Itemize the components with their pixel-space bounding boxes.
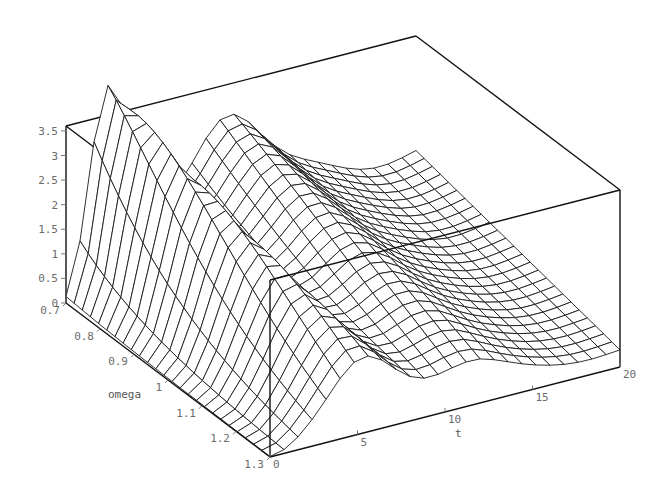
omega-axis-title: omega [108, 388, 141, 401]
omega-tick-label: 1.3 [244, 458, 264, 471]
z-tick-label: 1 [51, 248, 58, 261]
surface-plot: 00.511.522.533.5 0.70.80.911.11.21.3 051… [0, 0, 662, 492]
t-tick-label: 20 [623, 368, 636, 381]
z-tick-label: 3.5 [38, 125, 58, 138]
t-tick-label: 10 [448, 413, 461, 426]
omega-tick [97, 329, 100, 332]
t-tick-label: 15 [536, 391, 549, 404]
t-tick-label: 5 [361, 436, 368, 449]
omega-tick-label: 0.7 [40, 304, 60, 317]
z-axis: 00.511.522.533.5 [38, 125, 66, 310]
omega-tick [165, 380, 168, 383]
omega-tick-label: 0.8 [74, 330, 94, 343]
omega-tick-label: 1.2 [210, 432, 230, 445]
z-tick-label: 3 [51, 150, 58, 163]
z-tick-label: 2 [51, 199, 58, 212]
z-tick-label: 0.5 [38, 272, 58, 285]
omega-tick [267, 457, 270, 460]
omega-tick [199, 406, 202, 409]
omega-tick-label: 0.9 [108, 355, 128, 368]
omega-tick [233, 431, 236, 434]
z-tick-label: 1.5 [38, 223, 58, 236]
box-edge [416, 36, 620, 190]
omega-tick-label: 1.1 [176, 407, 196, 420]
omega-tick-label: 1 [155, 381, 162, 394]
omega-tick [131, 354, 134, 357]
z-tick-label: 2.5 [38, 174, 58, 187]
t-tick-label: 0 [273, 458, 280, 471]
t-axis-title: t [455, 427, 462, 440]
